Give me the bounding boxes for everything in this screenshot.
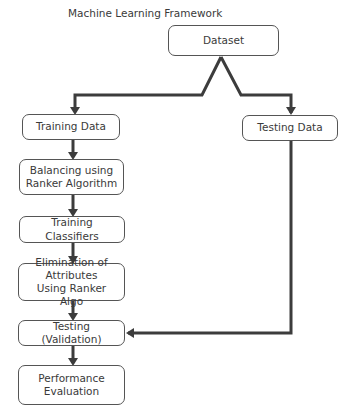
node-balancing-label: Balancing using Ranker Algorithm — [23, 164, 120, 190]
node-training-data-label: Training Data — [36, 120, 106, 133]
arrowhead-validation-right — [126, 328, 134, 338]
connectors — [0, 0, 353, 420]
node-dataset: Dataset — [168, 25, 279, 56]
node-elimination-label: Elimination of Attributes Using Ranker A… — [22, 256, 121, 309]
edge-dataset-testing — [221, 57, 291, 113]
node-testing-validation-label: Testing (Validation) — [22, 320, 121, 346]
node-training-classifiers-label: Training Classifiers — [23, 216, 121, 242]
node-performance: Performance Evaluation — [18, 365, 125, 405]
node-balancing: Balancing using Ranker Algorithm — [19, 159, 124, 195]
edge-testing-validation — [128, 141, 291, 333]
node-testing-validation: Testing (Validation) — [18, 320, 125, 346]
node-training-data: Training Data — [22, 114, 120, 140]
arrowhead-testing-data — [286, 107, 296, 115]
node-testing-data-label: Testing Data — [257, 121, 322, 134]
node-training-classifiers: Training Classifiers — [19, 216, 125, 243]
node-performance-label: Performance Evaluation — [22, 372, 121, 398]
node-dataset-label: Dataset — [203, 34, 244, 47]
node-elimination: Elimination of Attributes Using Ranker A… — [18, 263, 125, 301]
edge-dataset-training — [75, 57, 221, 112]
node-testing-data: Testing Data — [242, 115, 338, 141]
